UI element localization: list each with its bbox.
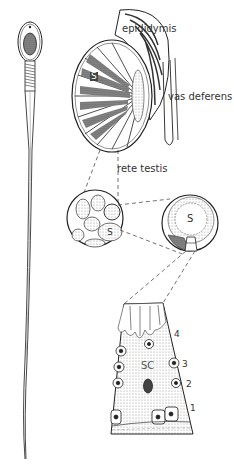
label-rete-testis: rete testis <box>117 164 168 174</box>
diagram-canvas <box>0 0 234 469</box>
label-epididymis: epididymis <box>122 24 176 34</box>
label-s-magnified: S <box>187 214 193 224</box>
tubule-cross-section <box>67 190 123 247</box>
label-layer-2: 2 <box>186 380 192 389</box>
label-layer-1: 1 <box>190 404 196 413</box>
label-vas-deferens: vas deferens <box>168 92 232 102</box>
sperm-cell <box>18 22 42 459</box>
label-s-cross-section: S <box>107 228 113 237</box>
label-layer-4: 4 <box>174 330 180 339</box>
label-sertoli-cell: SC <box>141 361 154 371</box>
label-layer-3: 3 <box>182 360 188 369</box>
label-s-tubule: S <box>90 72 98 81</box>
zoom-lines-3 <box>124 251 195 304</box>
